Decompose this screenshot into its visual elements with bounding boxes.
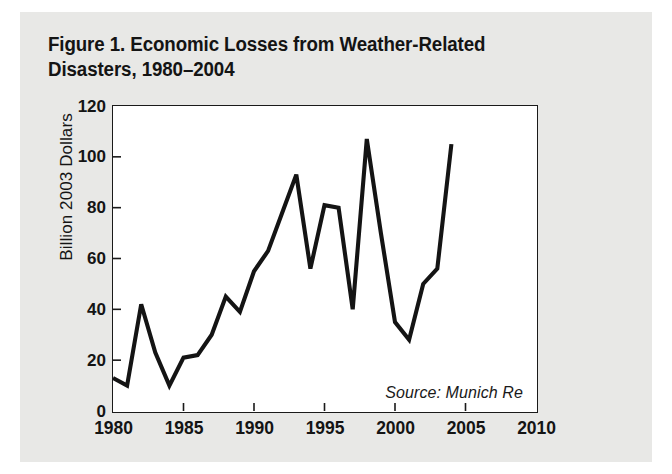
figure-panel: Figure 1. Economic Losses from Weather-R… — [20, 12, 652, 462]
data-series-line — [113, 139, 451, 386]
y-tick-label: 40 — [62, 300, 106, 320]
line-chart-svg — [113, 106, 536, 411]
x-tick-label: 1980 — [79, 418, 149, 439]
y-tick-label: 20 — [62, 351, 106, 371]
x-axis-tick-labels: 1980198519901995200020052010 — [112, 418, 538, 444]
y-tick-label: 120 — [62, 97, 106, 117]
source-note: Source: Munich Re — [385, 384, 523, 402]
x-tick-label: 2000 — [361, 418, 431, 439]
x-tick-label: 1985 — [149, 418, 219, 439]
y-tick-label: 60 — [62, 249, 106, 269]
x-tick-label: 1990 — [220, 418, 290, 439]
plot-frame: Source: Munich Re — [112, 105, 538, 413]
x-tick-label: 1995 — [290, 418, 360, 439]
x-tick-label: 2005 — [431, 418, 501, 439]
x-tick-label: 2010 — [502, 418, 572, 439]
y-axis-tick-labels: 020406080100120 — [56, 105, 106, 413]
y-tick-label: 100 — [62, 147, 106, 167]
chart-area: Billion 2003 Dollars 020406080100120 Sou… — [20, 12, 652, 462]
y-tick-label: 80 — [62, 198, 106, 218]
